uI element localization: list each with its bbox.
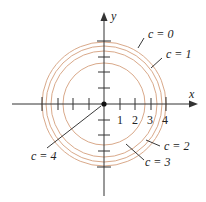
x-tick-label-3: 3 xyxy=(147,113,153,127)
leader-c2 xyxy=(146,140,160,146)
x-tick-label-1: 1 xyxy=(117,113,123,127)
curve-label-c0: c = 0 xyxy=(148,27,173,41)
leader-c1 xyxy=(151,58,162,68)
leader-c4 xyxy=(47,106,101,148)
curve-label-c1: c = 1 xyxy=(166,47,191,61)
x-tick-label-2: 2 xyxy=(132,113,138,127)
x-axis-label: x xyxy=(188,87,195,101)
curve-label-c4: c = 4 xyxy=(31,149,56,163)
x-tick-label-4: 4 xyxy=(162,113,168,127)
origin-point xyxy=(101,101,106,106)
x-axis-arrow-icon xyxy=(189,101,198,108)
y-axis-label: y xyxy=(110,9,117,23)
curve-label-c2: c = 2 xyxy=(164,139,189,153)
leader-c0 xyxy=(138,38,144,48)
y-axis-arrow-icon xyxy=(101,12,108,21)
level-curves-diagram: y x 1 2 3 4 c = 0 c = 1 c = 2 c = 3 c = … xyxy=(0,0,206,202)
curve-label-c3: c = 3 xyxy=(145,155,170,169)
